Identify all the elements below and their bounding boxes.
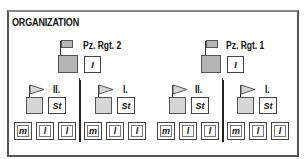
company-box: m [84,122,102,140]
battalion-divider [79,80,81,142]
company-box: l [179,122,197,140]
regiment-flag-icon [206,40,218,48]
company-box: l [128,122,146,140]
battalion-staff-box: St [259,97,277,114]
battalion-label: II. [53,84,60,95]
company-box: l [249,122,267,140]
company-box: l [271,122,289,140]
battalion-label: I. [265,84,270,95]
regiment-flag-icon [61,40,73,48]
company-box: l [36,122,54,140]
battalion-hq-box [237,97,254,114]
battalion-hq-box [26,97,43,114]
company-box: l [58,122,76,140]
battalion-hq-box [169,97,186,114]
battalion-staff-box: St [48,97,66,114]
regiment-hq-box [201,55,221,73]
regiment-staff-box: I [84,56,101,73]
company-box: m [157,122,175,140]
battalion-hq-box [95,97,112,114]
regiment-hq-box [58,55,78,73]
regiment-staff-box: I [227,56,244,73]
company-box: m [14,122,32,140]
page-title: ORGANIZATION [12,16,79,28]
battalion-staff-box: St [191,97,209,114]
battalion-staff-box: St [117,97,135,114]
company-box: l [201,122,219,140]
battalion-label: II. [195,84,202,95]
regiment-label: Pz. Rgt. 2 [83,40,121,51]
company-box: l [106,122,124,140]
company-box: m [227,122,245,140]
battalion-divider [222,80,224,142]
battalion-label: I. [123,84,128,95]
regiment-label: Pz. Rgt. 1 [226,40,264,51]
